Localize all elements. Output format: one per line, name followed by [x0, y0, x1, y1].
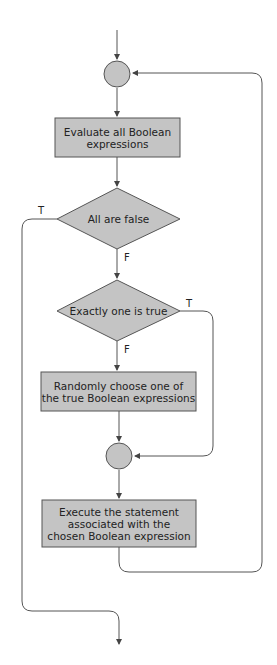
randomly-line2: the true Boolean expressions — [41, 392, 196, 404]
evaluate-line2: expressions — [55, 138, 180, 150]
evaluate-label: Evaluate all Boolean expressions — [55, 126, 180, 150]
junction-circle-bottom — [106, 443, 132, 469]
execute-label: Execute the statement associated with th… — [42, 506, 196, 542]
flowchart-canvas — [0, 0, 277, 665]
exactly-one-label: Exactly one is true — [57, 305, 180, 317]
all-false-label: All are false — [57, 213, 180, 225]
randomly-label: Randomly choose one of the true Boolean … — [41, 380, 196, 404]
execute-line2: associated with the — [42, 518, 196, 530]
all-false-true-label: T — [38, 205, 44, 216]
evaluate-line1: Evaluate all Boolean — [55, 126, 180, 138]
execute-line1: Execute the statement — [42, 506, 196, 518]
exactly-one-false-label: F — [124, 344, 130, 355]
junction-circle-top — [104, 61, 130, 87]
all-false-false-label: F — [124, 252, 130, 263]
randomly-line1: Randomly choose one of — [41, 380, 196, 392]
exactly-one-true-label: T — [186, 298, 192, 309]
execute-line3: chosen Boolean expression — [42, 530, 196, 542]
